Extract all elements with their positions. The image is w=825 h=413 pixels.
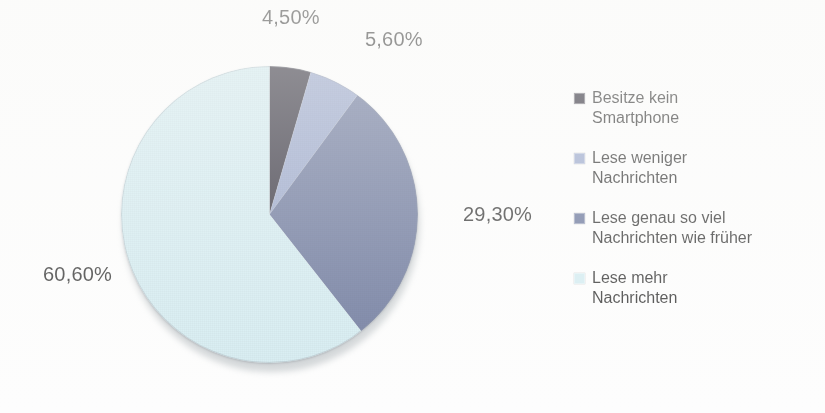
legend-item-lese-mehr-nachrichten[interactable]: Lese mehr Nachrichten (574, 268, 814, 308)
legend-item-besitze-kein-smartphone[interactable]: Besitze kein Smartphone (574, 88, 814, 128)
legend-item-label: Lese mehr Nachrichten (592, 268, 677, 308)
legend-item-label: Besitze kein Smartphone (592, 88, 679, 128)
slice-value-label-lese-genau-so-viel: 29,30% (463, 203, 532, 226)
chart-canvas: 4,50% 5,60% 29,30% 60,60% Besitze kein S… (0, 0, 825, 413)
legend-item-label: Lese weniger Nachrichten (592, 148, 687, 188)
chart-legend: Besitze kein Smartphone Lese weniger Nac… (574, 88, 814, 308)
pie-svg (121, 66, 418, 363)
legend-swatch-icon (574, 153, 585, 164)
pie-chart (121, 66, 418, 363)
legend-swatch-icon (574, 273, 585, 284)
legend-item-label: Lese genau so viel Nachrichten wie frühe… (592, 208, 752, 248)
legend-item-lese-genau-so-viel-nachrichten-wie-frueher[interactable]: Lese genau so viel Nachrichten wie frühe… (574, 208, 814, 248)
slice-value-label-lese-mehr-nachrichten: 60,60% (43, 263, 112, 286)
slice-value-label-lese-weniger-nachrichten: 5,60% (365, 28, 423, 51)
legend-swatch-icon (574, 213, 585, 224)
legend-swatch-icon (574, 93, 585, 104)
pie-slices-container (121, 66, 418, 363)
legend-item-lese-weniger-nachrichten[interactable]: Lese weniger Nachrichten (574, 148, 814, 188)
slice-value-label-besitze-kein-smartphone: 4,50% (262, 6, 320, 29)
